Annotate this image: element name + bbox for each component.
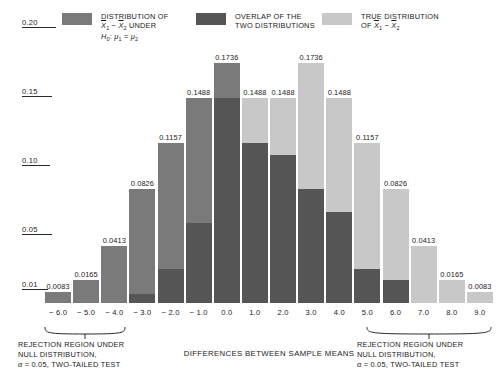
y-axis-tick-label: 0.10 (22, 156, 38, 165)
bar-segment (326, 212, 352, 303)
bar-segment (467, 292, 493, 303)
bar-segment (439, 280, 465, 303)
bar-segment (186, 98, 212, 223)
x-axis-tick-label: 6.0 (390, 308, 401, 317)
bar-segment (158, 143, 184, 268)
bar: 0.1488 (326, 98, 352, 303)
bar-value-label: 0.0165 (440, 270, 463, 279)
x-axis-tick: 7.0 (411, 0, 437, 1)
bar-segment (383, 189, 409, 280)
y-axis-tick-label: 0.05 (22, 225, 38, 234)
x-axis-tick-label: 5.0 (362, 308, 373, 317)
bar: 0.1488 (270, 98, 296, 303)
x-axis-tick-label: 1.0 (249, 308, 260, 317)
x-axis-tick-label: 0.0 (221, 308, 232, 317)
x-axis-tick-label: 8.0 (446, 308, 457, 317)
x-axis-title: DIFFERENCES BETWEEN SAMPLE MEANS (184, 349, 355, 358)
x-axis-tick: 6.0 (383, 0, 409, 1)
bar-segment (383, 280, 409, 303)
x-axis-tick-label: 9.0 (474, 308, 485, 317)
bar-segment (298, 63, 324, 189)
bar-segment (326, 98, 352, 212)
x-axis-tick: − 5.0 (73, 0, 99, 1)
x-axis-tick: 1.0 (242, 0, 268, 1)
bar-segment (129, 294, 155, 303)
bar-segment (411, 246, 437, 303)
bar-segment (73, 280, 99, 303)
bar-segment (242, 143, 268, 303)
bar: 0.1157 (158, 143, 184, 303)
x-axis-tick-label: − 1.0 (190, 308, 208, 317)
bar: 0.0083 (467, 292, 493, 303)
bar-segment (354, 269, 380, 303)
x-axis-tick-label: − 5.0 (77, 308, 95, 317)
bar: 0.1736 (214, 63, 240, 303)
bar-segment (45, 292, 71, 303)
bar-segment (242, 98, 268, 144)
bar: 0.1157 (354, 143, 380, 303)
x-axis-tick: − 2.0 (158, 0, 184, 1)
bar-segment (214, 63, 240, 97)
right-rejection-caption: REJECTION REGION UNDER NULL DISTRIBUTION… (357, 340, 463, 371)
bar: 0.0826 (129, 189, 155, 303)
bar-value-label: 0.0083 (46, 282, 69, 291)
bar-series-group: 0.0083− 6.00.0165− 5.00.0413− 4.00.0826−… (44, 0, 494, 303)
bar-value-label: 0.1157 (159, 133, 182, 142)
bar: 0.0165 (439, 280, 465, 303)
bar-segment (270, 155, 296, 303)
left-rejection-caption: REJECTION REGION UNDER NULL DISTRIBUTION… (18, 340, 124, 371)
bar-segment (129, 189, 155, 294)
x-axis-tick-label: − 6.0 (49, 308, 67, 317)
x-axis-tick: 4.0 (326, 0, 352, 1)
x-axis-tick-label: 7.0 (418, 308, 429, 317)
x-axis-tick: 5.0 (354, 0, 380, 1)
bar: 0.1736 (298, 63, 324, 303)
bar: 0.0413 (101, 246, 127, 303)
x-axis-tick: 0.0 (214, 0, 240, 1)
y-axis-tick-label: 0.01 (22, 280, 38, 289)
bar-segment (186, 223, 212, 303)
x-axis-tick-label: − 3.0 (133, 308, 151, 317)
bar-value-label: 0.1488 (243, 88, 266, 97)
bar-value-label: 0.0165 (75, 270, 98, 279)
bar-value-label: 0.1488 (271, 88, 294, 97)
bar-value-label: 0.1157 (356, 133, 379, 142)
bar: 0.0165 (73, 280, 99, 303)
bar: 0.1488 (186, 98, 212, 303)
x-axis-tick: 8.0 (439, 0, 465, 1)
x-axis-tick: 2.0 (270, 0, 296, 1)
x-axis-tick: 9.0 (467, 0, 493, 1)
bar-segment (270, 98, 296, 155)
bar-value-label: 0.1736 (215, 53, 238, 62)
bar-segment (214, 98, 240, 303)
x-axis-tick: − 4.0 (101, 0, 127, 1)
x-axis-tick-label: 3.0 (306, 308, 317, 317)
bar-value-label: 0.1488 (328, 88, 351, 97)
bar-value-label: 0.1488 (187, 88, 210, 97)
bar-segment (354, 143, 380, 268)
bar-value-label: 0.0413 (412, 236, 435, 245)
bar-value-label: 0.0413 (103, 236, 126, 245)
right-rejection-brace (366, 326, 494, 340)
x-axis-tick: 3.0 (298, 0, 324, 1)
left-rejection-brace (44, 326, 128, 340)
x-axis-tick-label: − 4.0 (105, 308, 123, 317)
x-axis-tick-label: 2.0 (277, 308, 288, 317)
x-axis-tick: − 6.0 (45, 0, 71, 1)
bar-segment (101, 246, 127, 303)
bar-segment (158, 269, 184, 303)
bar-value-label: 0.1736 (300, 53, 323, 62)
bar-value-label: 0.0083 (468, 282, 491, 291)
bar-segment (298, 189, 324, 303)
bar: 0.0826 (383, 189, 409, 303)
x-axis-tick: − 1.0 (186, 0, 212, 1)
bar: 0.0413 (411, 246, 437, 303)
x-axis-tick: − 3.0 (129, 0, 155, 1)
x-axis-tick-label: 4.0 (334, 308, 345, 317)
x-axis-tick-label: − 2.0 (161, 308, 179, 317)
bar: 0.0083 (45, 292, 71, 303)
y-axis-tick-label: 0.15 (22, 87, 38, 96)
y-axis-tick-label: 0.20 (22, 18, 38, 27)
bar-value-label: 0.0826 (131, 179, 154, 188)
bar-value-label: 0.0826 (384, 179, 407, 188)
